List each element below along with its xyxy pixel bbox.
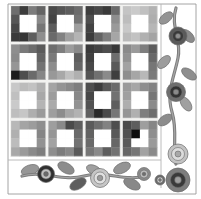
quilt-cell [103,6,112,15]
quilt-cell [20,6,29,15]
quilt-cell [48,71,57,80]
quilt-cell [74,130,83,139]
quilt-cell [86,100,95,109]
quilt-cell [103,24,112,33]
quilt-cell [123,83,132,92]
quilt-cell [48,62,57,71]
quilt-cell [148,53,157,62]
quilt-cell [11,130,20,139]
block-r2c3 [86,44,121,80]
quilt-cell [148,15,157,24]
quilt-cell [37,109,46,118]
block-r3c3 [86,83,121,119]
quilt-cell [37,53,46,62]
quilt-cell [86,53,95,62]
quilt-cell [57,15,66,24]
quilt-cell [57,71,66,80]
quilt-cell [28,138,37,147]
quilt-cell [37,15,46,24]
quilt-cell [11,138,20,147]
quilt-cell [131,15,140,24]
quilt-cell [86,44,95,53]
quilt-cell [94,109,103,118]
quilt-cell [131,109,140,118]
quilt-cell [65,91,74,100]
block-r3c1 [11,83,46,119]
quilt-cell [111,32,120,41]
block-r4c1 [11,121,46,157]
quilt-cell [57,130,66,139]
quilt-cell [28,83,37,92]
quilt-cell [48,91,57,100]
quilt-cell [11,24,20,33]
quilt-cell [123,91,132,100]
corner-flower-cluster [166,168,190,192]
quilt-cell [123,100,132,109]
quilt-cell [28,62,37,71]
quilt-cell [140,24,149,33]
quilt-cell [65,15,74,24]
quilt-cell [37,91,46,100]
quilt-cell [140,44,149,53]
quilt-cell [74,44,83,53]
quilt-cell [111,138,120,147]
quilt-cell [20,121,29,130]
quilt-cell [94,121,103,130]
quilt-cell [111,91,120,100]
quilt-cell [86,109,95,118]
quilt-cell [57,53,66,62]
quilt-cell [48,44,57,53]
quilt-cell [131,121,140,130]
quilt-cell [20,83,29,92]
quilt-cell [37,121,46,130]
quilt-cell [94,91,103,100]
quilt-cell [123,109,132,118]
quilt-cell [20,71,29,80]
quilt-cell [20,24,29,33]
quilt-cell [65,109,74,118]
quilt-cell [94,24,103,33]
quilt-cell [74,91,83,100]
flower-b3-icon [138,168,151,181]
quilt-cell [103,147,112,156]
flower-r2-icon [167,83,186,102]
quilt-artwork-svg [0,0,201,199]
quilt-cell [28,100,37,109]
quilt-cell [37,32,46,41]
quilt-cell [111,53,120,62]
corner-flower-large-icon [166,168,190,192]
quilt-cell [11,109,20,118]
quilt-cell [57,100,66,109]
quilt-cell [65,130,74,139]
quilt-cell [140,15,149,24]
quilt-cell [131,83,140,92]
quilt-cell [28,53,37,62]
quilt-cell [140,32,149,41]
quilt-cell [94,100,103,109]
quilt-cell [103,53,112,62]
flower-core [44,172,49,177]
quilt-cell [74,138,83,147]
block-r3c4 [123,83,158,119]
quilt-cell [65,6,74,15]
quilt-cell [57,32,66,41]
quilt-cell [11,91,20,100]
quilt-cell [111,130,120,139]
quilt-cell [86,62,95,71]
quilt-cell [28,91,37,100]
block-r1c2 [48,6,83,42]
quilt-cell [111,15,120,24]
quilt-cell [123,138,132,147]
quilt-pattern-canvas [0,0,201,199]
quilt-cell [57,83,66,92]
quilt-cell [37,24,46,33]
quilt-cell [11,71,20,80]
quilt-cell [103,100,112,109]
quilt-cell [148,147,157,156]
quilt-cell [74,121,83,130]
quilt-cell [94,71,103,80]
quilt-cell [48,83,57,92]
quilt-cell [123,71,132,80]
quilt-cell [28,15,37,24]
quilt-cell [94,130,103,139]
